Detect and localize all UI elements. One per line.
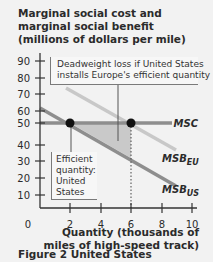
msb-us-label: MSBUS: [162, 184, 199, 198]
y-tick-10: 10: [17, 190, 30, 201]
y-tick-40: 40: [17, 140, 30, 151]
eff-callout-line1: Efficient: [56, 154, 97, 165]
y-tick-50: 50: [17, 118, 30, 129]
eff-callout-line4: States: [56, 187, 97, 198]
deadweight-loss-callout: Deadweight loss if United States install…: [50, 57, 198, 85]
x-tick-0: 0: [25, 219, 31, 230]
dwl-callout-line1: Deadweight loss if United States: [57, 59, 198, 70]
y-tick-60: 60: [17, 106, 30, 117]
msb-us-label-sub: US: [187, 189, 199, 198]
msb-us-label-main: MSB: [162, 184, 187, 195]
y-tick-labels: 90 80 70 60 50 40 30 20 10: [17, 56, 30, 201]
dwl-callout-line2: installs Europe's efficient quantity: [57, 70, 198, 81]
us-efficient-point: [66, 119, 75, 128]
msc-label: MSC: [174, 118, 199, 129]
y-tick-70: 70: [17, 89, 30, 100]
eff-callout-line3: United: [56, 176, 97, 187]
y-tick-20: 20: [17, 173, 30, 184]
y-tick-90: 90: [17, 56, 30, 67]
eff-callout-line2: quantity:: [56, 165, 97, 176]
y-tick-80: 80: [17, 73, 30, 84]
y-tick-30: 30: [17, 156, 30, 167]
msb-eu-label-main: MSB: [162, 153, 187, 164]
msb-eu-label: MSBEU: [162, 153, 199, 167]
eu-efficient-point: [127, 119, 136, 128]
efficient-quantity-callout: Efficient quantity: United States: [51, 152, 97, 200]
x-axis-title-line1: Quantity (thousands of: [44, 226, 200, 239]
chart-plot: 90 80 70 60 50 40 30 20 10 0 2 4 6 8 10 …: [0, 0, 213, 262]
figure-caption: Figure 2 United States: [18, 248, 152, 260]
msb-eu-label-sub: EU: [187, 158, 199, 167]
